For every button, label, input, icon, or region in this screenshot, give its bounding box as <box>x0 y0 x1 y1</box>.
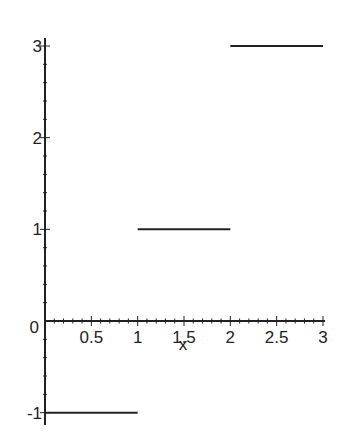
x-tick-label: 2.5 <box>265 328 289 347</box>
y-tick-label: -1 <box>27 404 42 423</box>
y-tick-label: 3 <box>33 37 42 56</box>
step-function-chart: 0.511.522.53-11230x <box>0 0 347 448</box>
x-tick-label: 2 <box>226 328 235 347</box>
x-tick-label: 0.5 <box>80 328 104 347</box>
y-tick-label: 1 <box>33 220 42 239</box>
x-tick-label: 1 <box>133 328 142 347</box>
x-tick-label: 3 <box>318 328 327 347</box>
axes <box>45 38 325 425</box>
origin-label: 0 <box>30 318 39 337</box>
plot-segments <box>45 46 323 413</box>
x-axis-label: x <box>179 335 188 354</box>
y-tick-label: 2 <box>33 129 42 148</box>
